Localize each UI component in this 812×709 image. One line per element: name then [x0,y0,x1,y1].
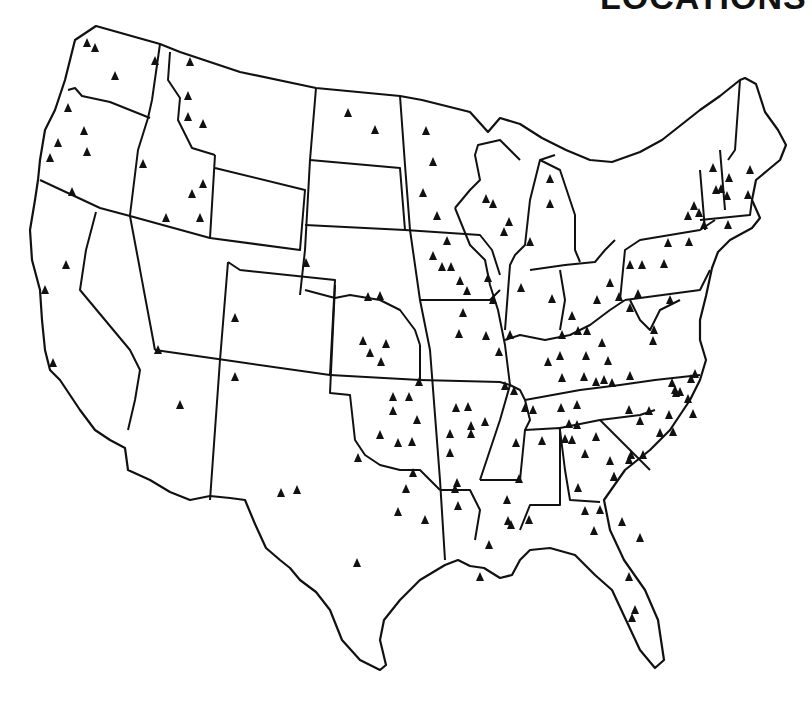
us-outline [30,26,786,670]
location-marker-icon [618,517,626,526]
us-map [0,0,812,709]
location-marker-icon [636,533,644,542]
location-marker-icon [476,572,484,581]
location-marker-icon [689,409,697,418]
